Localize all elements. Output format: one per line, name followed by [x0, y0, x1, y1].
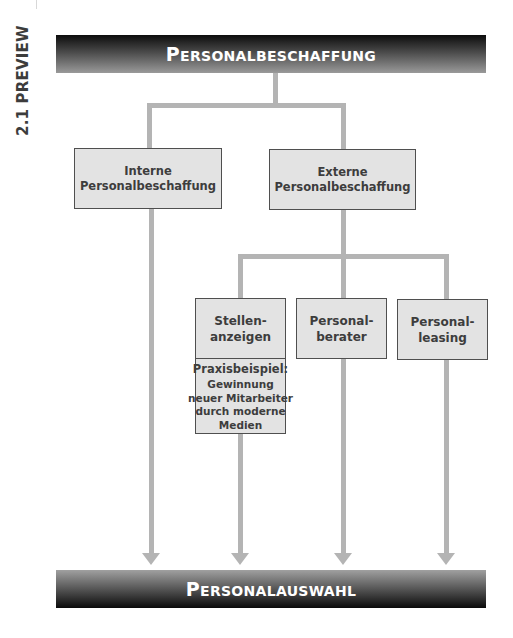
connector-to-interne	[147, 103, 152, 149]
arrow-down-icon	[231, 553, 249, 565]
arrow-shaft-personalberater	[341, 359, 346, 555]
bottom-bar-rest: ERSONALAUSWAHL	[200, 583, 356, 599]
box-line: anzeigen	[210, 329, 271, 345]
arrow-shaft-stellenanzeigen	[238, 434, 243, 555]
box-stellenanzeigen: Stellen- anzeigen	[195, 298, 286, 359]
top-bar-rest: ERSONALBESCHAFFUNG	[180, 48, 376, 64]
connector-level1-horizontal	[147, 103, 346, 108]
top-bar-initial: P	[166, 43, 180, 65]
box-line: Personal-	[411, 314, 475, 330]
connector-externe-vertical	[341, 210, 346, 259]
arrow-shaft-personalleasing	[444, 360, 449, 555]
example-line: Medien	[219, 419, 262, 433]
box-line: Stellen-	[214, 313, 266, 329]
box-line: Externe	[317, 165, 367, 180]
example-line: Gewinnung	[207, 378, 273, 392]
box-personalberater: Personal- berater	[296, 298, 387, 359]
box-line: berater	[316, 329, 367, 345]
connector-to-stellenanzeigen	[238, 254, 243, 299]
section-label: 2.1 PREVIEW	[8, 36, 38, 136]
page-edge-mark	[36, 0, 37, 9]
arrow-down-icon	[142, 553, 160, 565]
example-line: neuer Mitarbeiter	[188, 392, 293, 406]
connector-to-personalleasing	[444, 254, 449, 299]
box-praxisbeispiel: Praxisbeispiel: Gewinnung neuer Mitarbei…	[195, 358, 286, 434]
arrow-down-icon	[437, 553, 455, 565]
box-line: leasing	[418, 330, 467, 346]
box-line: Interne	[124, 164, 171, 179]
box-line: Personal-	[310, 313, 374, 329]
bottom-bar-initial: P	[186, 578, 200, 600]
box-externe-personalbeschaffung: Externe Personalbeschaffung	[269, 149, 416, 210]
example-title: Praxisbeispiel:	[193, 362, 288, 377]
box-line: Personalbeschaffung	[80, 179, 216, 194]
connector-to-personalberater	[341, 254, 346, 299]
arrow-shaft-interne	[149, 209, 154, 555]
example-line: durch moderne	[195, 405, 285, 419]
arrow-down-icon	[334, 553, 352, 565]
bottom-bar-personalauswahl: PERSONALAUSWAHL	[56, 570, 486, 608]
box-personalleasing: Personal- leasing	[397, 299, 488, 360]
connector-to-externe	[341, 103, 346, 149]
box-line: Personalbeschaffung	[274, 180, 410, 195]
box-interne-personalbeschaffung: Interne Personalbeschaffung	[74, 148, 222, 209]
top-bar-personalbeschaffung: PERSONALBESCHAFFUNG	[56, 35, 486, 73]
